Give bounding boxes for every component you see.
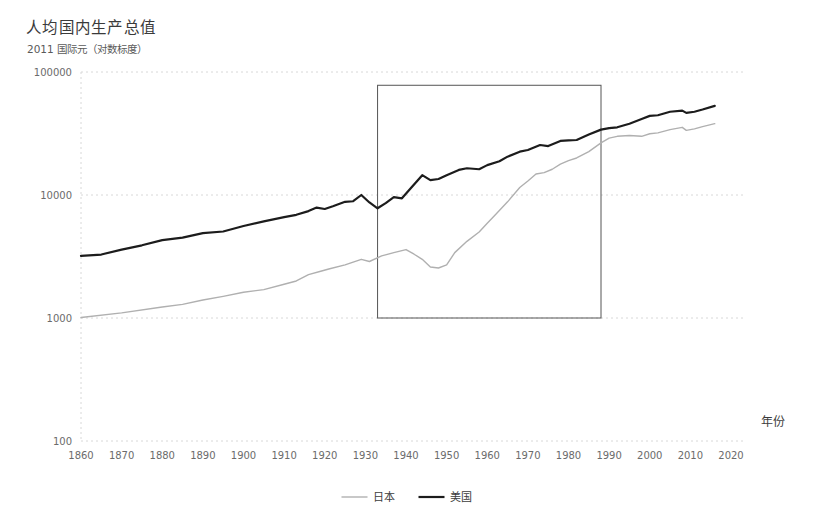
y-tick-10000: 10000 bbox=[40, 190, 72, 201]
y-tick-100: 100 bbox=[53, 436, 72, 447]
y-tick-1000: 1000 bbox=[47, 313, 72, 324]
gridlines bbox=[81, 72, 743, 441]
x-tick-1910: 1910 bbox=[271, 450, 296, 461]
x-tick-1970: 1970 bbox=[515, 450, 540, 461]
legend-label-1: 美国 bbox=[450, 491, 472, 504]
x-tick-1960: 1960 bbox=[475, 450, 500, 461]
x-tick-1940: 1940 bbox=[393, 450, 418, 461]
x-tick-1880: 1880 bbox=[150, 450, 175, 461]
y-tick-100000: 100000 bbox=[34, 67, 72, 78]
series-line-0 bbox=[81, 124, 715, 318]
highlight-rectangle bbox=[378, 85, 601, 318]
legend-item-0[interactable]: 日本 bbox=[342, 490, 395, 504]
x-tick-1950: 1950 bbox=[434, 450, 459, 461]
x-axis-tick-labels: 1860187018801890190019101920193019401950… bbox=[68, 450, 743, 461]
x-tick-2000: 2000 bbox=[637, 450, 662, 461]
y-axis-tick-labels: 100000100001000100 bbox=[34, 67, 72, 447]
chart-legend: 日本美国 bbox=[342, 490, 472, 504]
x-tick-1870: 1870 bbox=[109, 450, 134, 461]
x-tick-1990: 1990 bbox=[596, 450, 621, 461]
gdp-per-capita-chart: 人均国内生产总值 2011 国际元（对数标度） 1000001000010001… bbox=[0, 0, 815, 521]
x-tick-1920: 1920 bbox=[312, 450, 337, 461]
x-axis-label: 年份 bbox=[761, 415, 785, 429]
legend-item-1[interactable]: 美国 bbox=[419, 491, 472, 504]
x-tick-2010: 2010 bbox=[678, 450, 703, 461]
x-tick-1980: 1980 bbox=[556, 450, 581, 461]
x-tick-2020: 2020 bbox=[718, 450, 743, 461]
chart-plot-area: 1000001000010001001860187018801890190019… bbox=[0, 0, 815, 521]
series-line-1 bbox=[81, 106, 715, 256]
x-tick-1930: 1930 bbox=[353, 450, 378, 461]
x-tick-1860: 1860 bbox=[68, 450, 93, 461]
legend-label-0: 日本 bbox=[373, 490, 395, 504]
x-tick-1900: 1900 bbox=[231, 450, 256, 461]
x-tick-1890: 1890 bbox=[190, 450, 215, 461]
